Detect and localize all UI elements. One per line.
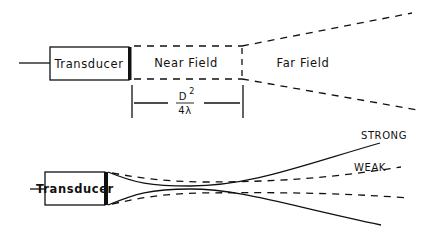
top-transducer-label: Transducer: [53, 57, 123, 71]
bottom-transducer-label: Transducer: [36, 182, 114, 196]
near-field-label: Near Field: [154, 56, 218, 70]
strong-beam-lower: [108, 189, 381, 225]
far-field-label: Far Field: [277, 56, 330, 70]
near-field-length-dimension: D 2 4λ: [132, 85, 243, 118]
fraction-numerator: D: [179, 91, 187, 102]
top-transducer-face: [128, 47, 132, 80]
far-field-bottom-boundary: [242, 79, 418, 110]
fraction-denominator: 4λ: [178, 105, 191, 116]
strong-label: STRONG: [361, 130, 407, 141]
top-diagram: Transducer Near Field Far Field D 2 4λ: [19, 13, 418, 118]
far-field-top-boundary: [242, 13, 412, 46]
transducer-field-diagram: Transducer Near Field Far Field D 2 4λ T…: [0, 0, 433, 239]
fraction-exponent: 2: [189, 87, 195, 96]
bottom-diagram: Transducer STRONG WEAK: [30, 130, 410, 225]
strong-beam-upper: [108, 143, 380, 186]
weak-label: WEAK: [354, 162, 386, 173]
